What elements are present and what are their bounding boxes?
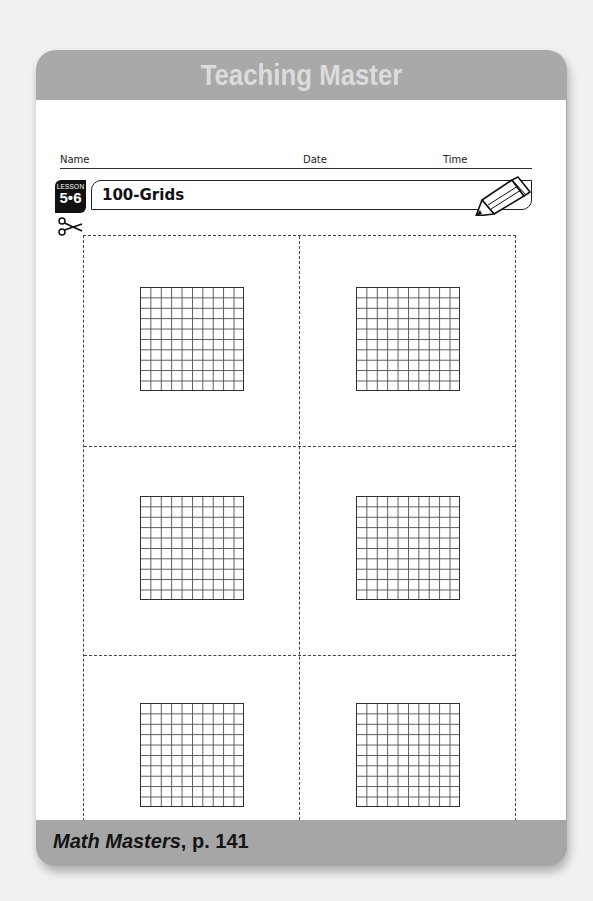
hundred-grid-row-2-left bbox=[140, 496, 244, 600]
source-citation: Math Masters, p. 141 bbox=[53, 830, 249, 853]
vertical-cut-line bbox=[299, 236, 300, 865]
hundred-grid-row-1-right bbox=[356, 287, 460, 391]
source-footer: Math Masters, p. 141 bbox=[36, 820, 567, 866]
date-label: Date bbox=[303, 154, 327, 165]
hundred-grid-row-3-right bbox=[356, 703, 460, 807]
source-title: Math Masters bbox=[53, 830, 181, 852]
horizontal-cut-line-1 bbox=[84, 446, 515, 447]
card-title: Teaching Master bbox=[73, 50, 530, 100]
hundred-grid-row-2-right bbox=[356, 496, 460, 600]
teaching-master-card: Teaching Master Name Date Time LESSON 5•… bbox=[36, 50, 567, 866]
source-page: , p. 141 bbox=[181, 830, 249, 852]
lesson-title: 100-Grids bbox=[102, 186, 184, 204]
cut-out-sheet bbox=[83, 235, 516, 866]
lesson-title-box: 100-Grids bbox=[91, 180, 532, 210]
pencil-icon bbox=[468, 176, 534, 216]
name-date-time-row: Name Date Time bbox=[60, 154, 532, 169]
hundred-grid-row-3-left bbox=[140, 703, 244, 807]
scissors-icon bbox=[57, 216, 83, 238]
time-label: Time bbox=[443, 154, 467, 165]
horizontal-cut-line-2 bbox=[84, 655, 515, 656]
name-label: Name bbox=[60, 154, 90, 165]
worksheet-page: Name Date Time LESSON 5•6 100-Grids bbox=[36, 100, 566, 820]
hundred-grid-row-1-left bbox=[140, 287, 244, 391]
lesson-badge: LESSON 5•6 bbox=[55, 180, 86, 213]
lesson-number: 5•6 bbox=[55, 190, 86, 205]
